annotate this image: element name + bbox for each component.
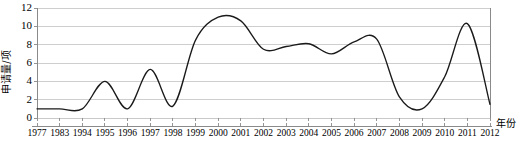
x-tick-label: 2005 bbox=[322, 128, 341, 138]
y-tick-label: 2 bbox=[27, 93, 33, 105]
x-tick-label: 2002 bbox=[254, 128, 273, 138]
x-axis-title: 年份 bbox=[496, 117, 516, 129]
x-axis-ticks bbox=[37, 118, 490, 126]
x-tick-label: 1998 bbox=[163, 128, 182, 138]
x-tick-label: 2011 bbox=[458, 128, 477, 138]
y-tick-label: 8 bbox=[27, 38, 33, 50]
y-tick-label: 10 bbox=[21, 19, 33, 31]
y-axis-ticks: 024681012 bbox=[21, 1, 37, 123]
gridlines bbox=[37, 8, 490, 118]
x-tick-label: 1999 bbox=[186, 128, 205, 138]
x-axis-labels: 1977198319941995199619971998199920002001… bbox=[28, 128, 500, 138]
x-tick-label: 2007 bbox=[367, 128, 386, 138]
x-tick-label: 2008 bbox=[390, 128, 409, 138]
x-tick-label: 2000 bbox=[209, 128, 228, 138]
chart-container: 024681012 197719831994199519961997199819… bbox=[0, 0, 525, 146]
x-tick-label: 2006 bbox=[345, 128, 364, 138]
x-tick-label: 2010 bbox=[435, 128, 454, 138]
y-tick-label: 6 bbox=[27, 56, 33, 68]
x-tick-label: 1983 bbox=[50, 128, 69, 138]
x-tick-label: 1997 bbox=[141, 128, 160, 138]
x-tick-label: 2012 bbox=[481, 128, 500, 138]
x-tick-label: 2003 bbox=[277, 128, 296, 138]
x-tick-label: 1996 bbox=[118, 128, 137, 138]
x-tick-label: 1994 bbox=[73, 128, 92, 138]
y-tick-label: 0 bbox=[27, 111, 33, 123]
y-tick-label: 4 bbox=[27, 74, 33, 86]
x-tick-label: 2001 bbox=[231, 128, 250, 138]
x-tick-label: 1995 bbox=[95, 128, 114, 138]
y-tick-label: 12 bbox=[21, 1, 32, 13]
line-chart: 024681012 197719831994199519961997199819… bbox=[0, 0, 525, 146]
x-tick-label: 2004 bbox=[299, 128, 318, 138]
x-tick-label: 2009 bbox=[413, 128, 432, 138]
y-axis-title: 申请量/项 bbox=[0, 50, 12, 93]
x-tick-label: 1977 bbox=[28, 128, 47, 138]
